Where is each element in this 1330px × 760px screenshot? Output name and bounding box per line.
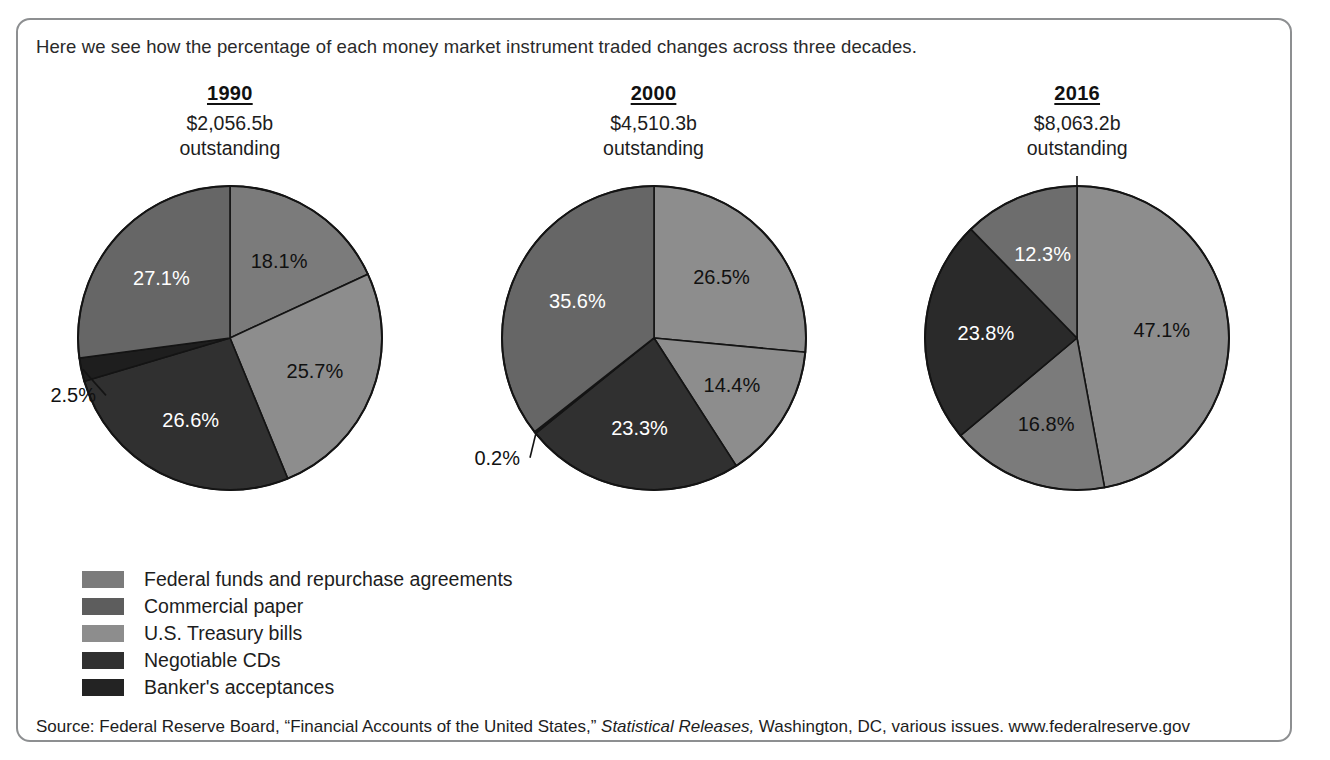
pie-slice-label: 0.2%	[474, 447, 520, 469]
legend-item-label: U.S. Treasury bills	[144, 622, 302, 645]
panel-amount: $8,063.2b	[865, 112, 1289, 135]
legend-item: Banker's acceptances	[82, 674, 513, 701]
pie-slice-label: 26.6%	[162, 409, 219, 431]
panel-amount-note: outstanding	[865, 137, 1289, 160]
legend-item-label: Federal funds and repurchase agreements	[144, 568, 513, 591]
source-prefix: Source: Federal Reserve Board, “Financia…	[36, 717, 601, 736]
source-note: Source: Federal Reserve Board, “Financia…	[36, 717, 1190, 737]
pie-slice-label: 35.6%	[549, 290, 606, 312]
panel-year: 2000	[442, 82, 866, 105]
panel-year: 2016	[865, 82, 1289, 105]
legend-item: Federal funds and repurchase agreements	[82, 566, 513, 593]
pie-slice-label: 27.1%	[133, 267, 190, 289]
legend-item-label: Commercial paper	[144, 595, 303, 618]
pie-panel-2000: 2000 $4,510.3b outstanding 26.5%14.4%23.…	[442, 82, 866, 532]
pie-1990: 18.1%25.7%26.6%2.5%27.1%	[18, 176, 442, 506]
panel-year: 1990	[18, 82, 442, 105]
panel-amount-note: outstanding	[442, 137, 866, 160]
pie-slice-label: 47.1%	[1134, 319, 1191, 341]
legend-swatch	[82, 598, 124, 615]
panel-amount-note: outstanding	[18, 137, 442, 160]
legend-item: Negotiable CDs	[82, 647, 513, 674]
legend-item-label: Negotiable CDs	[144, 649, 281, 672]
legend-swatch	[82, 571, 124, 588]
source-italic: Statistical Releases,	[601, 717, 754, 736]
pie-callout-line	[1015, 176, 1077, 186]
pie-svg-2000: 26.5%14.4%23.3%0.2%35.6%	[444, 176, 864, 506]
pie-slice-label: 16.8%	[1018, 413, 1075, 435]
pie-slice-label: 23.8%	[958, 322, 1015, 344]
panel-header: 1990 $2,056.5b outstanding	[18, 82, 442, 160]
pie-2000: 26.5%14.4%23.3%0.2%35.6%	[442, 176, 866, 506]
pie-panel-2016: 2016 $8,063.2b outstanding 47.1%16.8%23.…	[865, 82, 1289, 532]
legend-item: U.S. Treasury bills	[82, 620, 513, 647]
legend: Federal funds and repurchase agreements …	[82, 566, 513, 701]
pie-slice-label: 26.5%	[693, 266, 750, 288]
pie-slice-label: 23.3%	[611, 417, 668, 439]
cut-off-title: Money Market Instruments Outstanding	[0, 0, 1330, 14]
panel-header: 2000 $4,510.3b outstanding	[442, 82, 866, 160]
legend-swatch	[82, 625, 124, 642]
intro-text: Here we see how the percentage of each m…	[36, 36, 917, 58]
source-suffix: Washington, DC, various issues. www.fede…	[754, 717, 1190, 736]
panel-amount: $2,056.5b	[18, 112, 442, 135]
pie-slice-label: 2.5%	[50, 384, 96, 406]
pie-slice-label: 25.7%	[286, 360, 343, 382]
pie-callout-line	[530, 432, 536, 458]
pie-slice-label: 14.4%	[703, 374, 760, 396]
pie-2016: 47.1%16.8%23.8%0%12.3%	[865, 176, 1289, 506]
panel-header: 2016 $8,063.2b outstanding	[865, 82, 1289, 160]
legend-item: Commercial paper	[82, 593, 513, 620]
pie-panel-1990: 1990 $2,056.5b outstanding 18.1%25.7%26.…	[18, 82, 442, 532]
panel-amount: $4,510.3b	[442, 112, 866, 135]
pie-slice-label: 12.3%	[1014, 243, 1071, 265]
pie-svg-1990: 18.1%25.7%26.6%2.5%27.1%	[20, 176, 440, 506]
legend-swatch	[82, 679, 124, 696]
legend-swatch	[82, 652, 124, 669]
legend-item-label: Banker's acceptances	[144, 676, 334, 699]
figure-card: Here we see how the percentage of each m…	[16, 18, 1292, 742]
pie-chart-row: 1990 $2,056.5b outstanding 18.1%25.7%26.…	[18, 82, 1289, 532]
pie-slice-label: 18.1%	[251, 250, 308, 272]
pie-svg-2016: 47.1%16.8%23.8%0%12.3%	[867, 176, 1287, 506]
